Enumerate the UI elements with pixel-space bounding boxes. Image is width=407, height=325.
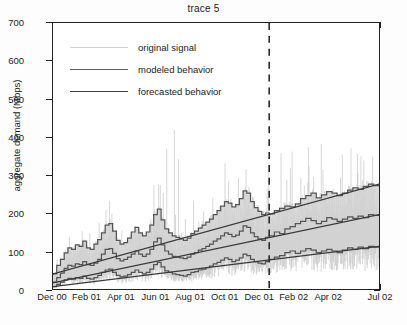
legend-swatch-modeled-behavior [70, 69, 128, 70]
y-tick-label: 600 [0, 55, 24, 66]
x-tick-label: Apr 01 [107, 292, 134, 302]
x-tick-label: Apr 02 [315, 292, 342, 302]
x-tick-label: Oct 01 [211, 292, 238, 302]
x-tick-mark [380, 284, 381, 290]
legend-label-original-signal: original signal [138, 42, 196, 53]
legend-label-modeled-behavior: modeled behavior [138, 64, 214, 75]
x-tick-label: Dec 01 [244, 292, 273, 302]
figure: trace 5 aggregate demand (Mbps) 01002003… [0, 0, 407, 325]
legend-item-original-signal: original signal [70, 36, 280, 58]
legend-label-forecasted-behavior: forecasted behavior [138, 86, 221, 97]
chart-title: trace 5 [0, 3, 407, 14]
x-tick-label: Jun 01 [142, 292, 170, 302]
y-tick-label: 100 [0, 246, 24, 257]
x-tick-label: Aug 01 [175, 292, 204, 302]
x-tick-label: Jul 02 [368, 292, 393, 302]
legend-item-forecasted-behavior: forecasted behavior [70, 80, 280, 102]
y-tick-label: 300 [0, 170, 24, 181]
legend-swatch-original-signal [70, 47, 128, 48]
y-tick-label: 500 [0, 93, 24, 104]
x-tick-label: Feb 01 [72, 292, 101, 302]
x-tick-label: Feb 02 [279, 292, 308, 302]
y-tick-mark [46, 290, 52, 291]
x-tick-label: Dec 00 [37, 292, 66, 302]
y-tick-mark-right [374, 290, 380, 291]
y-tick-label: 0 [0, 285, 24, 296]
x-tick-mark-top [380, 22, 381, 28]
y-tick-label: 700 [0, 17, 24, 28]
legend-item-modeled-behavior: modeled behavior [70, 58, 280, 80]
y-tick-label: 200 [0, 208, 24, 219]
y-tick-label: 400 [0, 131, 24, 142]
legend: original signal modeled behavior forecas… [70, 36, 280, 102]
legend-swatch-forecasted-behavior [70, 91, 128, 92]
